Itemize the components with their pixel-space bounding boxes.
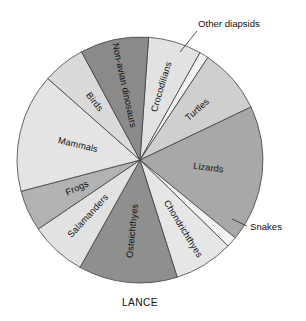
snakes-callout-label: Snakes (250, 221, 282, 232)
pie-chart: CrocodiliansTurtlesLizardsChondrichthyes… (0, 0, 306, 321)
figure-caption: LANCE (122, 297, 158, 308)
figure-canvas: CrocodiliansTurtlesLizardsChondrichthyes… (0, 0, 306, 321)
other-diapsids-callout-label: Other diapsids (198, 18, 260, 29)
pie-slices-group (17, 37, 263, 283)
